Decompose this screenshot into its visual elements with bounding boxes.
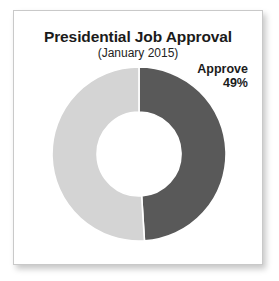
- donut-chart: [51, 66, 227, 242]
- title-block: Presidential Job Approval (January 2015): [14, 28, 262, 61]
- donut-slice-disapprove: [52, 67, 144, 241]
- page-title: Presidential Job Approval: [14, 28, 262, 45]
- donut-slices: [52, 67, 226, 241]
- chart-subtitle: (January 2015): [14, 46, 262, 61]
- chart-card: Presidential Job Approval (January 2015)…: [13, 10, 263, 265]
- donut-chart-svg: [51, 66, 227, 242]
- chart-page: Presidential Job Approval (January 2015)…: [0, 0, 279, 281]
- donut-slice-approve: [139, 67, 226, 241]
